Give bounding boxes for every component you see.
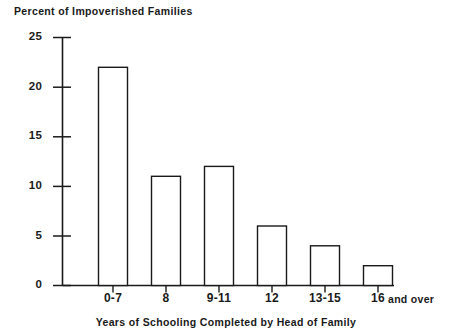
bar-12	[258, 226, 287, 286]
plot-area	[0, 0, 452, 336]
y-tick-label-5: 5	[16, 229, 42, 241]
x-tick-label-12: 12	[265, 291, 279, 305]
y-tick-label-25: 25	[16, 30, 42, 42]
x-tick-label-16: 16	[371, 291, 385, 305]
x-tick-label-and-over: and over	[388, 293, 434, 305]
bar-chart: Percent of Impoverished Families	[0, 0, 452, 336]
y-tick-label-10: 10	[16, 179, 42, 191]
x-axis-caption: Years of Schooling Completed by Head of …	[0, 316, 452, 328]
bar-series	[99, 67, 393, 285]
x-tick-label-13-15: 13-15	[309, 291, 341, 305]
x-tick-label-0-7: 0-7	[104, 291, 122, 305]
bar-8	[152, 176, 181, 285]
x-tick-label-8: 8	[163, 291, 170, 305]
y-tick-label-20: 20	[16, 80, 42, 92]
bar-16	[364, 266, 393, 286]
bar-9-11	[205, 166, 234, 285]
y-tick-label-15: 15	[16, 129, 42, 141]
bar-0-7	[99, 67, 128, 285]
x-tick-label-9-11: 9-11	[207, 291, 232, 305]
bar-13-15	[311, 246, 340, 286]
y-tick-label-0: 0	[16, 278, 42, 290]
